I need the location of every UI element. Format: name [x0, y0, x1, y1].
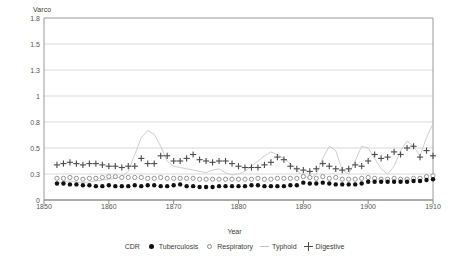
x-tick-label: 1880 — [231, 203, 247, 210]
legend-label-tuberculosis: Tuberculosis — [159, 243, 198, 250]
legend-label-respiratory: Respiratory — [217, 243, 253, 250]
filled-circle-marker-icon — [147, 242, 156, 251]
x-tick-label: 1850 — [36, 203, 52, 210]
chart-container: Varco 1.81.51.310.80.50.30 1850186018701… — [0, 0, 469, 264]
legend-prefix: CDR — [125, 243, 140, 250]
legend-item-typhoid[interactable]: Typhoid — [260, 242, 297, 251]
x-tick-label: 1860 — [101, 203, 117, 210]
open-circle-marker-icon — [205, 242, 214, 251]
legend-item-digestive[interactable]: Digestive — [304, 242, 345, 251]
legend-label-digestive: Digestive — [316, 243, 345, 250]
y-axis-ticks: 1.81.51.310.80.50.30 — [12, 0, 40, 264]
y-tick-label: 0.3 — [14, 171, 40, 178]
y-tick-label: 1.5 — [14, 41, 40, 48]
legend-item-respiratory[interactable]: Respiratory — [205, 242, 253, 251]
x-tick-label: 1870 — [166, 203, 182, 210]
x-tick-label: 1890 — [296, 203, 312, 210]
legend-label-typhoid: Typhoid — [272, 243, 297, 250]
line-marker-icon — [260, 242, 269, 251]
plus-marker-icon — [304, 242, 313, 251]
y-tick-label: 1.3 — [14, 67, 40, 74]
plot-area — [0, 0, 469, 264]
chart-legend: CDRTuberculosisRespiratoryTyphoidDigesti… — [0, 242, 469, 251]
y-tick-label: 0.8 — [14, 119, 40, 126]
y-tick-label: 0.5 — [14, 145, 40, 152]
x-tick-label: 1900 — [360, 203, 376, 210]
y-tick-label: 1.8 — [14, 15, 40, 22]
x-axis-title: Year — [0, 228, 469, 235]
y-tick-label: 1 — [14, 93, 40, 100]
legend-item-tuberculosis[interactable]: Tuberculosis — [147, 242, 198, 251]
x-tick-label: 1910 — [425, 203, 441, 210]
